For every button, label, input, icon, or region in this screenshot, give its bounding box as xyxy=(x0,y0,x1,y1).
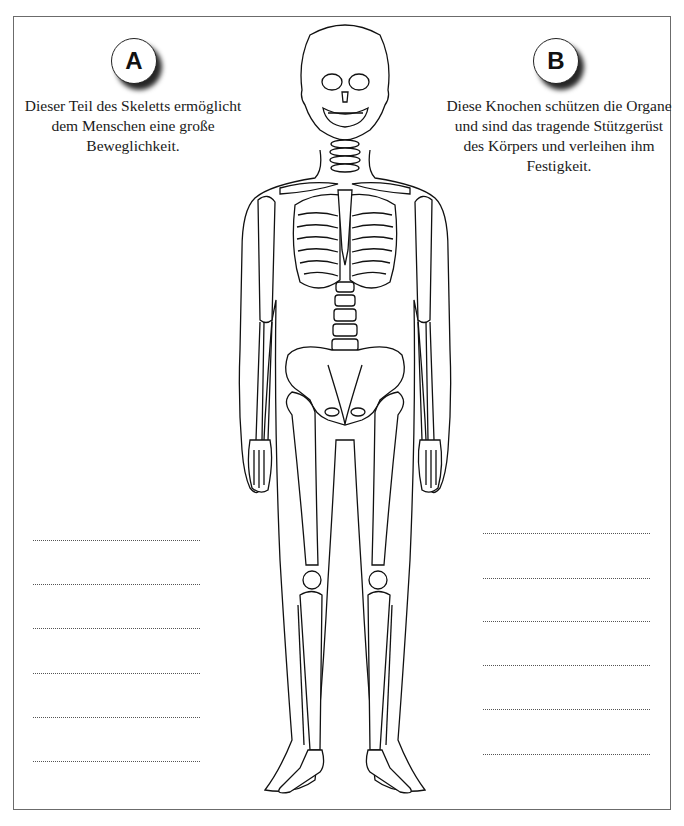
badge-b: B xyxy=(533,38,579,84)
skeleton-illustration xyxy=(220,20,470,810)
answer-line-b-3[interactable] xyxy=(483,621,650,622)
description-a: Dieser Teil des Skeletts ermöglicht dem … xyxy=(18,96,248,156)
answer-line-a-3[interactable] xyxy=(33,628,200,629)
answer-line-a-2[interactable] xyxy=(33,584,200,585)
answer-line-a-5[interactable] xyxy=(33,717,200,718)
answer-line-a-1[interactable] xyxy=(33,540,200,541)
answer-line-b-6[interactable] xyxy=(483,754,650,755)
answer-line-b-4[interactable] xyxy=(483,665,650,666)
answer-line-a-4[interactable] xyxy=(33,673,200,674)
skeleton-icon xyxy=(220,20,470,810)
badge-a: A xyxy=(111,38,157,84)
answer-line-a-6[interactable] xyxy=(33,761,200,762)
answer-line-b-5[interactable] xyxy=(483,709,650,710)
badge-b-label: B xyxy=(547,47,564,75)
answer-line-b-1[interactable] xyxy=(483,533,650,534)
badge-a-label: A xyxy=(125,47,142,75)
answer-line-b-2[interactable] xyxy=(483,578,650,579)
description-b: Diese Knochen schützen die Organe und si… xyxy=(445,96,673,176)
